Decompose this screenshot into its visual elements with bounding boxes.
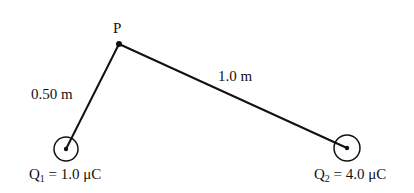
charge-q1-symbol: Q [29, 166, 40, 182]
point-p-dot [116, 41, 122, 47]
distance-label-p-q1: 0.50 m [31, 87, 73, 102]
charge-q1-label: Q1 = 1.0 μC [29, 167, 101, 182]
charge-q1-subscript: 1 [40, 173, 45, 184]
charge-q1-value: 1.0 μC [61, 166, 102, 182]
charge-q1-dot [64, 147, 68, 151]
charge-q2-label: Q2 = 4.0 μC [314, 167, 386, 182]
distance-label-p-q2: 1.0 m [218, 69, 252, 84]
charge-q2-symbol: Q [314, 166, 325, 182]
segment-p-q1 [66, 44, 119, 149]
point-p-label: P [113, 21, 121, 36]
charge-q2-dot [345, 146, 349, 150]
charge-q1-equals: = [45, 166, 61, 182]
charge-q2-subscript: 2 [325, 173, 330, 184]
segment-p-q2 [119, 44, 347, 148]
charge-q2-equals: = [330, 166, 346, 182]
charge-q2-value: 4.0 μC [346, 166, 387, 182]
